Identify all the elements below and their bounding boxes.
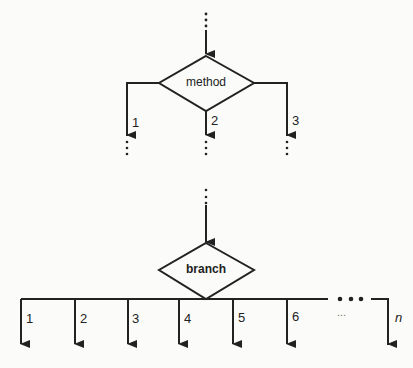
- incoming-continuation-dots: [205, 13, 208, 28]
- flowchart-canvas: [0, 0, 413, 368]
- method-branch-3-line: [254, 83, 287, 136]
- branch-ellipsis: ...: [337, 306, 346, 318]
- bus-ellipsis-dots: [338, 297, 364, 302]
- method-branch-continuation-dots: [126, 141, 289, 205]
- branch-n-line: [371, 299, 388, 345]
- branch-label-2: 2: [80, 311, 87, 326]
- method-label: method: [166, 75, 246, 89]
- method-branch-label-3: 3: [292, 113, 299, 128]
- method-branch-label-2: 2: [211, 113, 218, 128]
- method-branch-label-1: 1: [132, 115, 139, 130]
- branch-label-1: 1: [26, 311, 33, 326]
- branch-label-5: 5: [238, 310, 245, 325]
- branch-label-n: n: [395, 310, 402, 325]
- branch-label: branch: [166, 262, 246, 276]
- branch-label-4: 4: [184, 311, 191, 326]
- branch-label-3: 3: [132, 311, 139, 326]
- branch-label-6: 6: [292, 309, 299, 324]
